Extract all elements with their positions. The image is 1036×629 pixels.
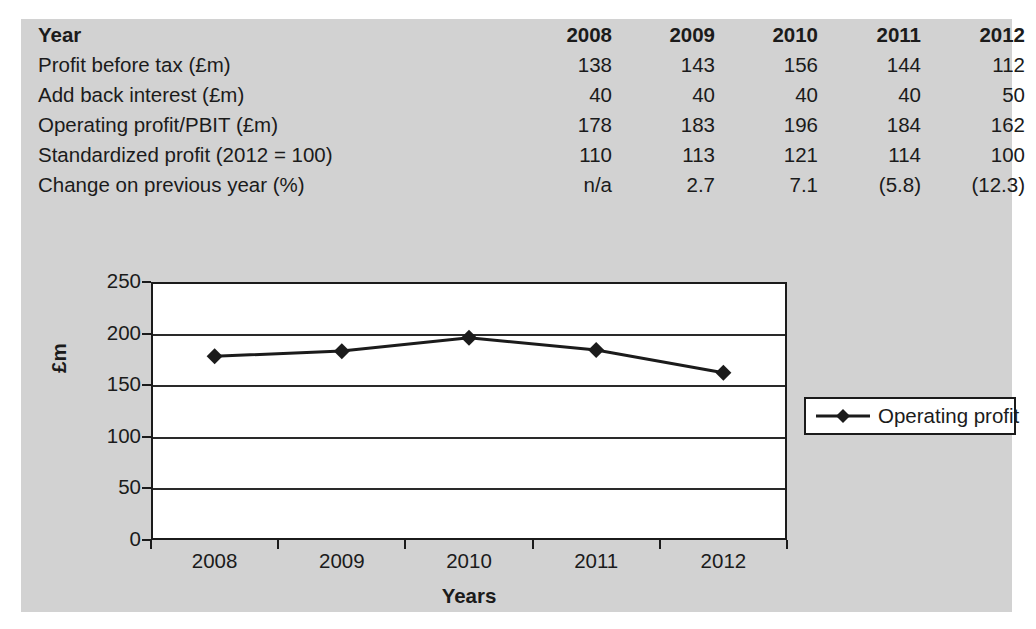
x-axis-tick [532,540,534,549]
table-row: Change on previous year (%)n/a2.77.1(5.8… [21,170,1025,200]
y-axis-tick [142,487,151,489]
y-axis-tick-label: 0 [81,529,141,550]
y-axis-tick-label: 200 [81,323,141,344]
table-row-label: Standardized profit (2012 = 100) [21,140,509,170]
table-cell: 138 [509,50,612,80]
table-cell: 2.7 [612,170,715,200]
table-header-year: 2012 [921,19,1025,50]
table-cell: 50 [921,80,1025,110]
x-axis-tick-label: 2012 [663,549,783,573]
table-cell: 100 [921,140,1025,170]
table-row-label: Add back interest (£m) [21,80,509,110]
data-point-marker [334,343,350,359]
table-cell: 156 [715,50,818,80]
table-row-label: Change on previous year (%) [21,170,509,200]
table-cell: n/a [509,170,612,200]
x-axis-tick [786,540,788,549]
y-axis-tick [142,436,151,438]
data-point-marker [588,342,604,358]
table-cell: 114 [818,140,921,170]
table-cell: (5.8) [818,170,921,200]
y-axis-tick-label: 100 [81,426,141,447]
table-cell: 178 [509,110,612,140]
x-axis-tick [150,540,152,549]
x-axis-tick-label: 2010 [409,549,529,573]
table-cell: 113 [612,140,715,170]
legend-label: Operating profit [878,404,1019,428]
table-row-label: Operating profit/PBIT (£m) [21,110,509,140]
table-header-row: Year20082009201020112012 [21,19,1025,50]
table-row: Standardized profit (2012 = 100)11011312… [21,140,1025,170]
y-axis-tick-label: 150 [81,374,141,395]
table-cell: 40 [715,80,818,110]
table-row: Profit before tax (£m)138143156144112 [21,50,1025,80]
table-cell: 7.1 [715,170,818,200]
series-operating-profit [151,282,787,540]
x-axis-title: Years [21,584,917,608]
table-cell: 144 [818,50,921,80]
table-cell: 183 [612,110,715,140]
table-cell: 40 [612,80,715,110]
table-header-year: 2009 [612,19,715,50]
table-cell: 121 [715,140,818,170]
legend-marker-icon [814,407,872,425]
table-cell: 112 [921,50,1025,80]
data-point-marker [207,348,223,364]
chart-legend: Operating profit [804,397,1016,435]
table-cell: 143 [612,50,715,80]
y-axis-title: £m [47,343,71,373]
y-axis-labels: 050100150200250 [69,243,141,543]
table-header-label: Year [21,19,509,50]
table-header-year: 2011 [818,19,921,50]
x-axis-tick-label: 2009 [282,549,402,573]
figure-panel: Year20082009201020112012Profit before ta… [21,19,1012,612]
table-cell: 110 [509,140,612,170]
table-cell: 40 [818,80,921,110]
data-table: Year20082009201020112012Profit before ta… [21,19,1025,200]
y-axis-tick [142,384,151,386]
x-axis-tick-label: 2008 [155,549,275,573]
table-row: Operating profit/PBIT (£m)17818319618416… [21,110,1025,140]
table-cell: 196 [715,110,818,140]
data-point-marker [461,330,477,346]
y-axis-tick [142,333,151,335]
table-cell: 162 [921,110,1025,140]
y-axis-tick [142,281,151,283]
x-axis-tick-label: 2011 [536,549,656,573]
y-axis-tick-label: 50 [81,477,141,498]
table-cell: 184 [818,110,921,140]
table-header-year: 2008 [509,19,612,50]
table-cell: 40 [509,80,612,110]
x-axis-tick [659,540,661,549]
table-row: Add back interest (£m)4040404050 [21,80,1025,110]
table-cell: (12.3) [921,170,1025,200]
data-point-marker [715,365,731,381]
x-axis-tick [404,540,406,549]
y-axis-tick-label: 250 [81,271,141,292]
line-chart: £m 050100150200250 20082009201020112012 … [21,243,1012,612]
x-axis-tick [277,540,279,549]
table-header-year: 2010 [715,19,818,50]
table-row-label: Profit before tax (£m) [21,50,509,80]
